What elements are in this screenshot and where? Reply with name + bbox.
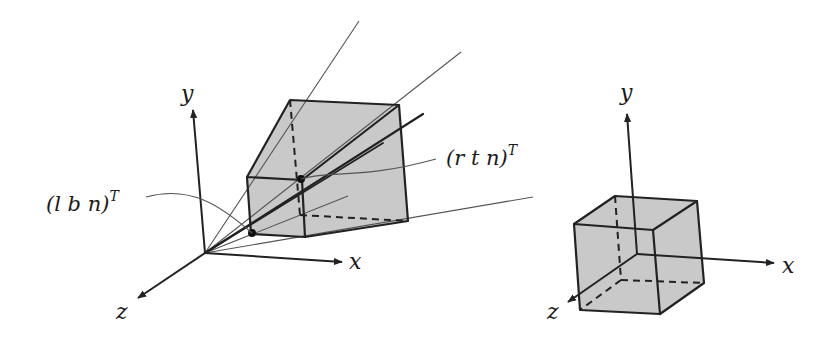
y-axis-arrow — [193, 110, 205, 253]
diagram-canvas: y x z (l b n)T (r t n)T — [0, 0, 836, 344]
x-axis-label: x — [349, 249, 362, 274]
x-axis-arrow — [205, 253, 342, 262]
label-rtn: (r t n)T — [446, 142, 519, 170]
cube-x-axis-label: x — [782, 253, 795, 278]
cube-y-axis-label: y — [619, 80, 633, 105]
frustum-diagram: y x z (l b n)T (r t n)T — [46, 21, 533, 324]
z-axis-arrow — [138, 253, 205, 298]
label-lbn: (l b n)T — [46, 188, 120, 216]
cube-z-axis-label: z — [546, 299, 559, 324]
z-axis-label: z — [115, 299, 128, 324]
canonical-cube-diagram: y x z — [546, 80, 795, 324]
y-axis-label: y — [180, 81, 194, 106]
leader-lbn — [146, 193, 252, 233]
